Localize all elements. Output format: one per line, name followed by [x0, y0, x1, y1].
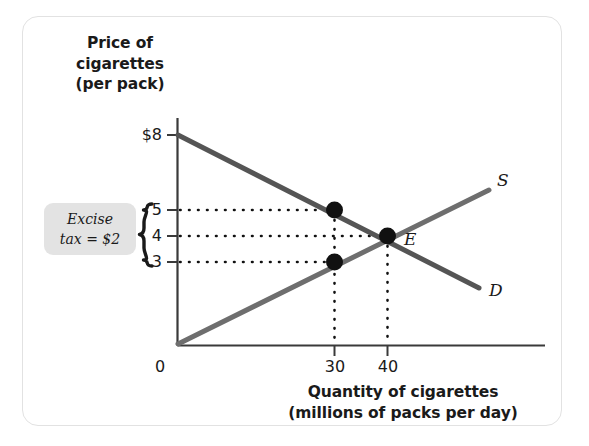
demand-curve-label: D: [489, 282, 503, 299]
excise-tax-annotation: Excise tax = $2: [44, 203, 136, 255]
excise-tax-line-2: tax = $2: [60, 229, 120, 249]
x-tick-label-30: 30: [312, 359, 358, 375]
y-tick-label-3: 3: [110, 254, 162, 270]
x-axis-title-line-1: Quantity of cigarettes: [238, 382, 568, 403]
figure-root: Price of cigarettes (per pack) Quantity …: [0, 0, 589, 446]
y-axis-title: Price of cigarettes (per pack): [60, 33, 180, 95]
y-axis-title-line-2: cigarettes: [60, 54, 180, 75]
x-tick-label-40: 40: [365, 359, 411, 375]
point-producer-price: [326, 254, 343, 271]
y-tick-label-8: $8: [110, 127, 162, 143]
x-axis-title-line-2: (millions of packs per day): [238, 403, 568, 424]
supply-curve-label: S: [497, 172, 509, 189]
origin-label: 0: [148, 359, 172, 375]
point-equilibrium-e: [379, 228, 396, 245]
y-axis-title-line-1: Price of: [60, 33, 180, 54]
excise-tax-line-1: Excise: [67, 209, 113, 229]
y-axis-title-line-3: (per pack): [60, 74, 180, 95]
point-consumer-price: [326, 202, 343, 219]
x-axis-title: Quantity of cigarettes (millions of pack…: [238, 382, 568, 423]
guide-lines: [180, 210, 388, 343]
equilibrium-label-e: E: [404, 231, 416, 248]
